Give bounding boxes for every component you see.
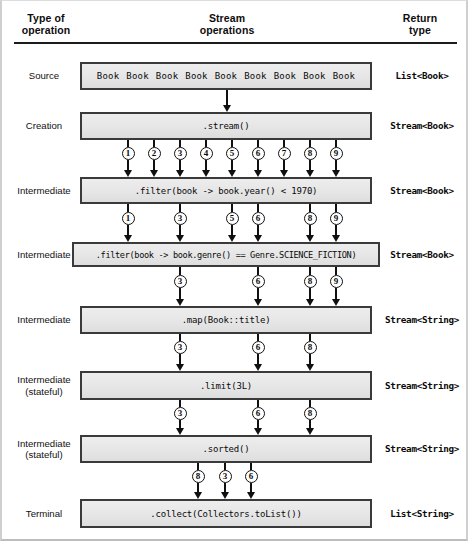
source-element-book: Book	[244, 71, 266, 81]
row-type-label: Intermediate	[6, 185, 82, 196]
row-type-label-line: Terminal	[6, 508, 82, 519]
flow-line	[127, 140, 129, 147]
stream-element-token: 8	[304, 341, 317, 354]
flow-arrowhead	[332, 299, 340, 306]
flow-arrowhead	[221, 492, 229, 499]
source-element-book: Book	[156, 71, 178, 81]
flow-arrowhead	[254, 428, 262, 435]
return-type-label: Stream<String>	[376, 443, 468, 454]
row-type-label: Intermediate	[6, 249, 82, 260]
row-type-label-line: Intermediate	[6, 314, 82, 325]
flow-arrowhead	[150, 170, 158, 177]
row-type-label: Terminal	[6, 508, 82, 519]
column-header-stream-line2: operations	[132, 25, 322, 37]
row-type-label: Intermediate	[6, 314, 82, 325]
return-type-label: Stream<Book>	[376, 249, 468, 260]
row-type-label: Intermediate(stateful)	[6, 438, 82, 460]
row-type-label-line: Source	[6, 70, 82, 81]
flow-arrowhead	[247, 492, 255, 499]
flow-line	[309, 204, 311, 212]
flow-arrowhead	[254, 299, 262, 306]
row-type-label: Intermediate(stateful)	[6, 374, 82, 396]
stream-element-token: 8	[304, 407, 317, 420]
flow-line	[197, 463, 199, 470]
flow-arrowhead	[306, 428, 314, 435]
stream-element-token: 3	[174, 341, 187, 354]
flow-line	[179, 140, 181, 147]
flow-line	[179, 334, 181, 341]
flow-arrowhead	[332, 170, 340, 177]
stream-element-token: 3	[219, 470, 232, 483]
source-element-book: Book	[303, 71, 325, 81]
stream-element-token: 5	[226, 147, 239, 160]
stream-element-token: 8	[304, 147, 317, 160]
stream-element-token: 7	[278, 147, 291, 160]
flow-line	[257, 267, 259, 275]
stream-element-token: 6	[252, 407, 265, 420]
return-type-label: List<String>	[376, 508, 468, 519]
stream-element-token: 8	[304, 275, 317, 288]
stream-element-token: 1	[122, 212, 135, 225]
column-header-return-type: Return type	[374, 13, 466, 36]
flow-line	[153, 140, 155, 147]
header-divider-rule	[14, 42, 457, 44]
flow-arrowhead	[280, 170, 288, 177]
stream-element-token: 9	[330, 212, 343, 225]
operation-box-label: .map(Book::title)	[182, 315, 271, 325]
row-type-label-line: Intermediate	[6, 185, 82, 196]
flow-arrowhead	[176, 170, 184, 177]
row-type-label-line: Intermediate	[6, 374, 82, 385]
flow-line	[250, 463, 252, 470]
source-element-book: Book	[97, 71, 119, 81]
operation-box[interactable]: .stream()	[80, 112, 372, 140]
column-header-type-line1: Type of	[6, 13, 86, 25]
flow-arrowhead	[306, 170, 314, 177]
flow-line	[283, 140, 285, 147]
stream-element-token: 6	[252, 275, 265, 288]
operation-box[interactable]: .limit(3L)	[80, 371, 372, 400]
column-header-stream-line1: Stream	[132, 13, 322, 25]
operation-box-label: .collect(Collectors.toList())	[150, 509, 301, 519]
return-type-label: Stream<Book>	[376, 185, 468, 196]
flow-line	[179, 204, 181, 212]
operation-box-label: .filter(book -> book.year() < 1970)	[135, 186, 318, 196]
flow-arrowhead	[176, 428, 184, 435]
flow-arrowhead	[176, 364, 184, 371]
flow-arrowhead	[306, 299, 314, 306]
flow-line	[309, 140, 311, 147]
flow-arrowhead	[306, 364, 314, 371]
operation-box[interactable]: .map(Book::title)	[80, 306, 372, 334]
operation-box[interactable]: .filter(book -> book.genre() == Genre.SC…	[72, 242, 380, 267]
source-element-book: Book	[215, 71, 237, 81]
stream-element-token: 3	[174, 275, 187, 288]
source-element-book: Book	[126, 71, 148, 81]
flow-line	[231, 140, 233, 147]
operation-box[interactable]: BookBookBookBookBookBookBookBookBook	[80, 62, 372, 90]
flow-line	[224, 463, 226, 470]
column-header-return-line2: type	[374, 25, 466, 37]
stream-element-token: 4	[200, 147, 213, 160]
stream-element-token: 9	[330, 275, 343, 288]
flow-line	[257, 204, 259, 212]
operation-box[interactable]: .filter(book -> book.year() < 1970)	[80, 177, 372, 204]
return-type-label: Stream<String>	[376, 314, 468, 325]
operation-box[interactable]: .collect(Collectors.toList())	[80, 499, 372, 528]
flow-arrowhead	[254, 364, 262, 371]
operation-box-label: .stream()	[203, 121, 250, 131]
flow-arrowhead	[254, 235, 262, 242]
stream-element-token: 6	[245, 470, 258, 483]
stream-pipeline-diagram: Type of operation Stream operations Retu…	[0, 0, 468, 541]
operation-box[interactable]: .sorted()	[80, 435, 372, 463]
flow-arrowhead	[176, 299, 184, 306]
stream-element-token: 3	[174, 147, 187, 160]
operation-box-label: .limit(3L)	[200, 381, 252, 391]
flow-line	[231, 204, 233, 212]
flow-line	[335, 267, 337, 275]
column-header-return-line1: Return	[374, 13, 466, 25]
flow-arrowhead	[223, 105, 231, 112]
flow-line	[127, 204, 129, 212]
flow-arrowhead	[176, 235, 184, 242]
flow-line	[335, 140, 337, 147]
stream-element-token: 6	[252, 341, 265, 354]
row-type-label-line: (stateful)	[6, 449, 82, 460]
